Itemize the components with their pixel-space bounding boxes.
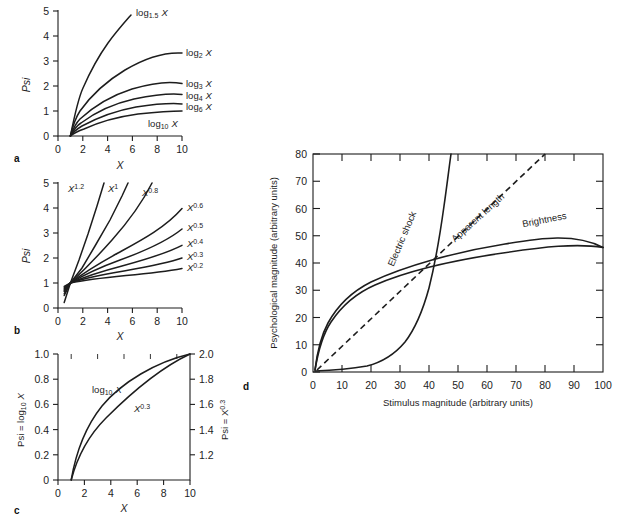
panel-d-x-axis-title: Stimulus magnitude (arbitrary units) [383,397,533,408]
svg-text:X0.5: X0.5 [186,222,203,233]
figure-psychophysical-scaling: 0 1 2 3 4 5 0 2 4 6 8 1 [0,0,626,523]
svg-text:log10X: log10X [148,118,178,130]
panel-d-ytick-5: 50 [295,230,307,242]
panel-a-ytick-2: 2 [43,80,49,92]
panel-b-xtick-4: 8 [154,315,160,327]
panel-c-ytick-left-5: 1.0 [34,348,49,360]
panel-c-ytick-right-1: 1.4 [199,424,214,436]
panel-c-ytick-right-2: 1.6 [199,398,214,410]
panel-d-xtick-3: 30 [394,379,406,391]
panel-a-letter: a [14,153,20,164]
panel-d-letter: d [243,381,249,392]
panel-b-ytick-2: 2 [43,252,49,264]
panel-c-y-axis-title-left: Psi = log10X [15,392,27,447]
panel-a-ytick-4: 4 [43,30,49,42]
panel-a-curve-log6 [70,104,182,136]
panel-d-xtick-7: 70 [510,379,522,391]
panel-d-xtick-2: 20 [365,379,377,391]
svg-text:log10X: log10X [92,384,122,396]
panel-d-ytick-4: 40 [295,257,307,269]
svg-text:X0.8: X0.8 [141,187,158,198]
panel-d-xtick-6: 60 [481,379,493,391]
panel-c-ytick-left-4: 0.8 [34,373,49,385]
panel-d-xtick-4: 40 [423,379,435,391]
panel-b-y-axis-title: Psi [20,248,32,263]
panel-d-y-axis-title: Psychological magnitude (arbitrary units… [268,177,279,349]
panel-c-xtick-5: 10 [184,487,196,499]
panel-c-ytick-left-0: 0 [43,474,49,486]
panel-b-curve-label-x1_2: X1.2 [67,183,84,194]
panel-d-xtick-0: 0 [310,379,316,391]
panel-b-ytick-3: 3 [43,227,49,239]
panel-d-curve-brightness-main [315,246,603,370]
panel-a-xtick-4: 8 [154,143,160,155]
svg-text:log3X: log3X [186,78,213,90]
panel-c-letter: c [14,505,20,516]
panel-c-curve-x0_3 [71,354,190,480]
panel-b-ytick-4: 4 [43,202,49,214]
svg-text:log1.5X: log1.5X [136,7,168,19]
panel-c-curve-label-x0_3: X0.3 [133,403,150,414]
panel-d-ytick-0: 0 [301,366,307,378]
svg-text:log2X: log2X [186,47,213,59]
panel-a-xtick-3: 6 [129,143,135,155]
panel-d-curve-label-apparent-length: Apparent length [449,191,506,244]
panel-a-y-axis-title: Psi [20,77,32,92]
panel-a-curve-label-log3: log3X [186,78,213,90]
panel-a-xtick-1: 2 [80,143,86,155]
panel-a-curve-label-log1_5: log1.5X [136,7,168,19]
panel-b-xtick-2: 4 [105,315,111,327]
panel-a-ytick-0: 0 [43,130,49,142]
panel-a: 0 1 2 3 4 5 0 2 4 6 8 1 [0,0,290,165]
svg-text:X0.6: X0.6 [186,202,203,213]
svg-text:X0.3: X0.3 [186,251,203,262]
panel-b-xtick-0: 0 [55,315,61,327]
panel-d-xtick-10: 100 [594,379,612,391]
panel-a-xtick-5: 10 [176,143,188,155]
panel-b-curve-label-x0_8: X0.8 [141,187,158,198]
panel-c-y-axis-title-right: Psi = X0.3 [219,400,230,440]
panel-c-x-axis-title: X [119,502,128,514]
panel-a-curve-label-log2: log2X [186,47,213,59]
panel-b-xtick-1: 2 [80,315,86,327]
panel-d-ytick-8: 80 [295,148,307,160]
panel-b-xtick-3: 6 [129,315,135,327]
panel-d-ytick-7: 70 [295,175,307,187]
panel-c-curve-log10 [71,354,190,480]
panel-c-ytick-right-0: 1.2 [199,449,214,461]
panel-d-xtick-8: 80 [539,379,551,391]
svg-text:log6X: log6X [186,101,213,113]
panel-c-xtick-4: 8 [161,487,167,499]
panel-b-curve-label-x0_3: X0.3 [186,251,203,262]
panel-c-xtick-1: 2 [81,487,87,499]
panel-c-xtick-2: 4 [108,487,114,499]
panel-d-curve-label-brightness: Brightness [521,210,567,229]
panel-d-curve-label-electric-shock: Electric shock [385,209,418,267]
panel-a-curve-label-log6: log6X [186,101,213,113]
panel-c-ytick-left-2: 0.4 [34,424,49,436]
panel-a-xtick-2: 4 [105,143,111,155]
panel-b-letter: b [14,325,20,336]
panel-b-ytick-0: 0 [43,302,49,314]
panel-c-ytick-left-3: 0.6 [34,398,49,410]
panel-d-xtick-9: 90 [568,379,580,391]
panel-a-ytick-1: 1 [43,105,49,117]
panel-b-curve-label-x0_6: X0.6 [186,202,203,213]
panel-a-curve-label-log10: log10X [148,118,178,130]
panel-d-xtick-5: 50 [452,379,464,391]
panel-c-xtick-3: 6 [134,487,140,499]
panel-a-ytick-5: 5 [43,5,49,17]
panel-d-curve-apparent-length [317,154,545,370]
panel-c-ytick-right-4: 2.0 [199,348,214,360]
panel-b-curve-label-x0_4: X0.4 [186,238,203,249]
panel-d-xtick-1: 10 [336,379,348,391]
panel-d-ytick-6: 60 [295,203,307,215]
panel-b-curve-label-x0_5: X0.5 [186,222,203,233]
panel-c-xtick-0: 0 [55,487,61,499]
svg-text:X1: X1 [107,183,118,194]
panel-c-ytick-right-3: 1.8 [199,373,214,385]
panel-b-xtick-5: 10 [176,315,188,327]
panel-b: 0 1 2 3 4 5 0 2 4 6 8 10 [0,168,290,336]
svg-text:X1.2: X1.2 [67,183,84,194]
svg-text:X0.2: X0.2 [186,262,203,273]
